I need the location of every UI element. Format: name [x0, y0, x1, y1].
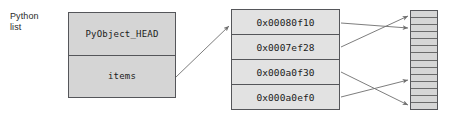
memory-row-3	[411, 31, 437, 38]
arrow-pointer-0-to-memory	[341, 23, 408, 28]
pointer-array-cell-1: 0x0007ef28	[232, 34, 339, 59]
memory-row-7	[411, 60, 437, 67]
list-object-cell-pyobject-head: PyObject_HEAD	[69, 13, 175, 55]
memory-row-9	[411, 74, 437, 81]
pointer-array-box: 0x00080f10 0x0007ef28 0x000a0f30 0x000a0…	[231, 9, 340, 110]
memory-grid	[410, 10, 438, 110]
pointer-array-cell-2: 0x000a0f30	[232, 59, 339, 84]
arrow-items-to-pointer-array	[176, 26, 229, 77]
memory-row-8	[411, 67, 437, 74]
memory-row-1	[411, 17, 437, 24]
memory-row-6	[411, 52, 437, 59]
arrow-pointer-3-to-memory	[341, 80, 408, 97]
pointer-array-cell-0: 0x00080f10	[232, 10, 339, 34]
memory-row-11	[411, 88, 437, 95]
memory-row-4	[411, 38, 437, 45]
arrow-pointer-1-to-memory	[341, 16, 408, 47]
arrow-pointer-2-to-memory	[341, 72, 408, 105]
memory-row-2	[411, 24, 437, 31]
list-object-cell-items: items	[69, 55, 175, 98]
list-object-box: PyObject_HEAD items	[68, 12, 176, 98]
memory-row-13	[411, 102, 437, 109]
memory-row-10	[411, 81, 437, 88]
python-list-memory-diagram: Python list PyObject_HEAD items 0x00080f…	[0, 0, 451, 121]
pointer-array-cell-3: 0x000a0ef0	[232, 84, 339, 109]
python-list-label: Python list	[10, 11, 39, 33]
memory-row-5	[411, 45, 437, 52]
memory-row-12	[411, 95, 437, 102]
